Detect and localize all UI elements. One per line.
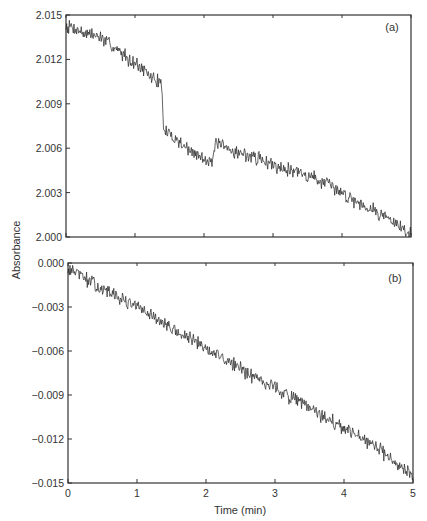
x-tick-label: 5 (410, 487, 416, 499)
y-tick-label: 0.000 (38, 257, 64, 269)
y-tick-label: −0.003 (32, 301, 65, 313)
x-tick-label: 1 (134, 487, 140, 499)
panel-a-y-axis: 2.0002.0032.0062.0092.0122.015 (36, 9, 70, 243)
panel-b-y-axis: −0.015−0.012−0.009−0.006−0.0030.000 (32, 257, 72, 489)
panel-b-label: (b) (388, 272, 401, 284)
panel-b-frame (68, 263, 413, 483)
panel-a: 2.0002.0032.0062.0092.0122.015 (a) (36, 9, 411, 243)
x-axis-label: Time (min) (214, 504, 266, 516)
y-tick-label: 2.006 (36, 142, 62, 154)
y-tick-label: −0.012 (32, 433, 65, 445)
panel-b: −0.015−0.012−0.009−0.006−0.0030.000 0123… (32, 257, 417, 499)
y-axis-label: Absorbance (10, 221, 22, 280)
y-tick-label: −0.015 (32, 477, 65, 489)
y-tick-label: 2.003 (36, 187, 62, 199)
y-tick-label: −0.006 (32, 345, 65, 357)
x-tick-label: 2 (203, 487, 209, 499)
y-tick-label: 2.015 (36, 9, 62, 21)
x-tick-label: 3 (272, 487, 278, 499)
x-tick-label: 0 (65, 487, 71, 499)
y-tick-label: 2.009 (36, 98, 62, 110)
y-tick-label: 2.000 (36, 231, 62, 243)
panel-a-label: (a) (385, 21, 398, 33)
figure: 2.0002.0032.0062.0092.0122.015 (a) −0.01… (0, 0, 427, 521)
figure-svg: 2.0002.0032.0062.0092.0122.015 (a) −0.01… (0, 0, 427, 521)
panel-a-line (66, 20, 411, 237)
y-tick-label: −0.009 (32, 389, 65, 401)
x-tick-label: 4 (341, 487, 347, 499)
panel-b-line (68, 265, 413, 479)
y-tick-label: 2.012 (36, 53, 62, 65)
